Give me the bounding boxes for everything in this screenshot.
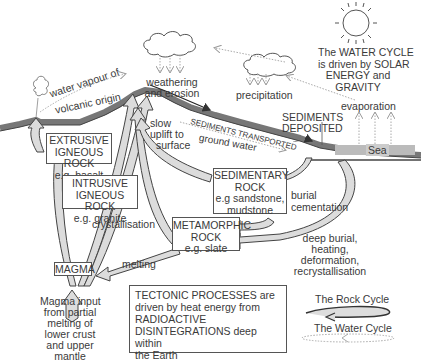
magma-box: MAGMA: [54, 262, 92, 276]
slow-uplift-label: slow uplift to surface: [150, 118, 190, 151]
deep-burial-label: deep burial, heating, deformation, recry…: [290, 233, 370, 277]
magma-input-label: Magma input from partial melting of lowe…: [40, 296, 100, 362]
sediments-deposited-label: SEDIMENTS DEPOSITED: [282, 112, 342, 134]
metamorphic-rock-box: METAMORPHIC ROCK e.g. slate: [172, 217, 240, 251]
sea-label: Sea: [366, 144, 389, 156]
sun-icon: [335, 2, 377, 44]
water-cycle-note: The WATER CYCLE is driven by SOLAR ENERG…: [318, 47, 398, 93]
burial-cementation-label: burial cementation: [291, 189, 348, 213]
intrusive-igneous-rock-box: INTRUSIVE IGNEOUS ROCK e.g. granite: [62, 175, 138, 209]
precipitation-label: precipitation: [236, 89, 293, 101]
cloud-weathering-icon: [144, 32, 196, 58]
tectonic-processes-box: TECTONIC PROCESSES are driven by heat en…: [129, 285, 287, 353]
evaporation-label: evaporation: [341, 100, 396, 112]
rock-cycle-legend-symbol: [306, 307, 390, 321]
water-cycle-legend-label: The Water Cycle: [314, 322, 392, 334]
melting-label: melting: [122, 258, 156, 270]
extrusive-igneous-rock-box: EXTRUSIVE IGNEOUS ROCK e.g. basalt: [46, 133, 112, 164]
sedimentary-rock-box: SEDIMENTARY ROCK e.g sandstone, mudstone: [213, 168, 287, 214]
water-cycle-legend-symbol: [302, 334, 394, 342]
cloud-precipitation-icon: [244, 53, 296, 76]
rock-cycle-legend-label: The Rock Cycle: [315, 293, 389, 305]
weathering-label: weathering and erosion: [140, 77, 204, 99]
